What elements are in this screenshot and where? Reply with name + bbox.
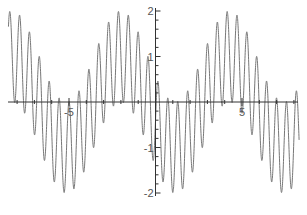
chart: -5 5 2 1 -1 -2 (0, 0, 307, 215)
y-tick-label-2: 2 (147, 5, 153, 17)
y-tick-label-neg2: -2 (144, 187, 154, 199)
x-tick-label-5: 5 (239, 106, 245, 118)
y-tick-label-1: 1 (147, 51, 153, 63)
y-tick-label-neg1: -1 (144, 142, 154, 154)
x-tick-label-neg5: -5 (64, 106, 74, 118)
